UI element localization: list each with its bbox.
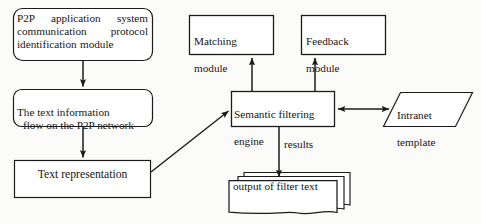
diagram-canvas: P2P application system communication pro…	[0, 0, 481, 224]
node-matching-module-shape	[190, 16, 274, 55]
node-text-flow-shape	[14, 90, 153, 127]
node-p2p-module-shape	[14, 9, 153, 61]
node-intranet-template-shape	[384, 93, 473, 127]
node-semantic-engine-shape	[232, 92, 335, 127]
edge-representation-to-engine	[151, 111, 229, 172]
node-output-document-front	[229, 181, 337, 214]
node-feedback-module-shape	[302, 16, 386, 55]
node-text-representation-shape	[15, 161, 151, 198]
diagram-shapes-and-connectors	[0, 0, 481, 224]
